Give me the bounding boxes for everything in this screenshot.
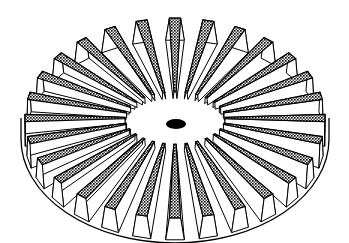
center-hole [166, 119, 186, 129]
crown-gear-drawing [0, 0, 349, 243]
gear-tooth [166, 18, 185, 99]
gear-illustration [0, 0, 349, 243]
